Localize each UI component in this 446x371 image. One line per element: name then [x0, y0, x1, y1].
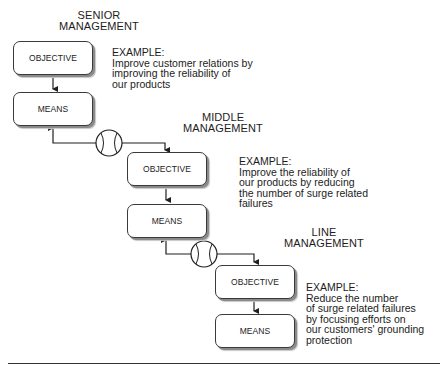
baseball-icon [191, 241, 217, 267]
example-text: our products [112, 79, 253, 90]
senior-objective-box: OBJECTIVE [13, 41, 93, 75]
example-text: protection [306, 335, 424, 346]
example-label: EXAMPLE: [239, 156, 368, 167]
line-example: EXAMPLE: Reduce the number of surge rela… [306, 282, 424, 346]
senior-means-box: MEANS [13, 92, 93, 126]
middle-means-box: MEANS [127, 204, 207, 238]
middle-example: EXAMPLE: Improve the reliability of our … [239, 156, 368, 209]
baseball-icon [96, 130, 122, 156]
senior-example: EXAMPLE: Improve customer relations by i… [112, 47, 253, 89]
line-objective-box: OBJECTIVE [215, 265, 295, 299]
example-label: EXAMPLE: [112, 47, 253, 58]
example-text: failures [239, 198, 368, 209]
middle-objective-box: OBJECTIVE [127, 152, 207, 186]
line-means-box: MEANS [215, 314, 295, 348]
example-label: EXAMPLE: [306, 282, 424, 293]
bottom-divider [8, 363, 440, 364]
